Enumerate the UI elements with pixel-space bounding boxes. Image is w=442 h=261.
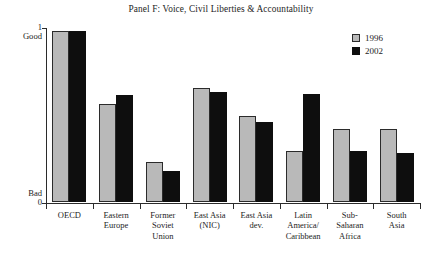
bar-1996 (333, 129, 350, 203)
x-axis-tick (373, 204, 374, 209)
bar-group (380, 27, 414, 202)
bar-1996 (52, 31, 69, 203)
x-axis-tick (46, 204, 47, 209)
x-axis-category-label: FormerSovietUnion (140, 210, 187, 241)
bar-group (146, 27, 180, 202)
bar-group (193, 27, 227, 202)
x-axis-category-label: Sub-SaharanAfrica (327, 210, 374, 241)
bar-2002 (69, 31, 86, 203)
chart-panel-f: Panel F: Voice, Civil Liberties & Accoun… (0, 0, 442, 261)
bar-1996 (380, 129, 397, 203)
legend: 1996 2002 (352, 31, 383, 57)
x-axis-category-label: LatinAmerica/Caribbean (280, 210, 327, 241)
bar-2002 (303, 94, 320, 203)
y-axis-tick-label-good: Good (23, 32, 42, 41)
x-axis-tick (186, 204, 187, 209)
bar-2002 (163, 171, 180, 203)
bar-group (286, 27, 320, 202)
x-axis-tick (233, 204, 234, 209)
bar-2002 (116, 95, 133, 202)
bar-2002 (256, 122, 273, 203)
y-axis-tick-label-0: 0 (38, 198, 42, 207)
legend-label-2002: 2002 (365, 46, 383, 56)
legend-item-2002: 2002 (352, 44, 383, 57)
legend-label-1996: 1996 (365, 33, 383, 43)
y-axis-line (46, 28, 47, 204)
x-axis-category-label: EasternEurope (93, 210, 140, 231)
bar-2002 (350, 151, 367, 202)
legend-swatch-2002-icon (352, 47, 360, 55)
bar-1996 (193, 88, 210, 202)
bar-1996 (239, 116, 256, 202)
bar-group (239, 27, 273, 202)
x-axis-category-label: East Asia(NIC) (186, 210, 233, 231)
x-axis-tick (280, 204, 281, 209)
x-axis-tick (140, 204, 141, 209)
bar-group (99, 27, 133, 202)
x-axis-category-label: OECD (46, 210, 93, 220)
bar-1996 (99, 104, 116, 202)
bar-1996 (146, 162, 163, 202)
x-axis-tick (420, 204, 421, 209)
legend-swatch-1996-icon (352, 34, 360, 42)
bar-1996 (286, 151, 303, 202)
legend-item-1996: 1996 (352, 31, 383, 44)
bar-2002 (210, 92, 227, 202)
x-axis-tick (327, 204, 328, 209)
y-tick-top (42, 28, 47, 29)
bar-group (52, 27, 86, 202)
bar-2002 (397, 153, 414, 202)
chart-title: Panel F: Voice, Civil Liberties & Accoun… (0, 4, 442, 14)
x-axis-category-label: East Asiadev. (233, 210, 280, 231)
x-axis-tick (93, 204, 94, 209)
x-axis-category-label: SouthAsia (373, 210, 420, 231)
